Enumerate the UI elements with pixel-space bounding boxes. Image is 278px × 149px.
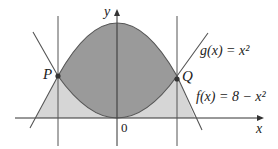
point-q	[174, 76, 179, 81]
label-origin: 0	[121, 120, 128, 136]
graph-canvas	[0, 0, 278, 149]
label-x: x	[256, 121, 262, 137]
label-q: Q	[182, 68, 193, 85]
label-y: y	[104, 4, 110, 20]
label-p: P	[43, 66, 52, 83]
point-p	[55, 73, 60, 78]
label-f: f(x) = 8 − x²	[196, 89, 266, 105]
label-g: g(x) = x²	[200, 43, 249, 59]
y-axis-arrow-icon	[114, 9, 120, 16]
graph-figure: y x 0 P Q g(x) = x² f(x) = 8 − x²	[0, 0, 278, 149]
